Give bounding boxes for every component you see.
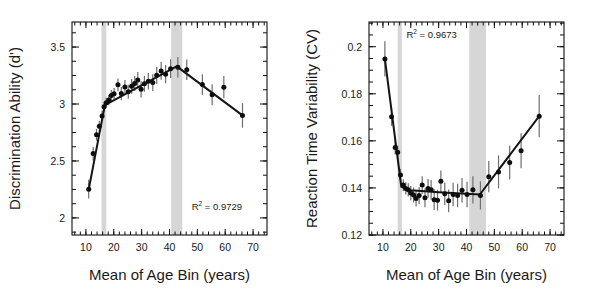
reaction-time-variability-panel: 102030405060700.120.140.160.180.2Mean of…: [297, 0, 594, 306]
data-point: [86, 187, 91, 192]
data-point: [163, 72, 168, 77]
data-point: [446, 198, 451, 203]
data-point: [91, 151, 96, 156]
shaded-band-0: [398, 22, 402, 235]
data-point: [154, 73, 159, 78]
r-squared-annotation: R2 = 0.9729: [192, 200, 242, 212]
discrimination-ability-panel: 1020304050607022.533.5Mean of Age Bin (y…: [0, 0, 297, 306]
data-point: [135, 78, 140, 83]
y-tick-label: 0.14: [342, 182, 363, 194]
data-point: [537, 114, 542, 119]
y-tick-label: 0.16: [342, 135, 363, 147]
data-point: [429, 187, 434, 192]
data-point: [175, 65, 180, 70]
y-tick-label: 2.5: [50, 155, 65, 167]
data-point: [486, 174, 491, 179]
right-plot-svg: 102030405060700.120.140.160.180.2Mean of…: [297, 0, 594, 306]
data-point: [398, 172, 403, 177]
data-point: [420, 183, 425, 188]
data-point: [126, 89, 131, 94]
figure-root: 1020304050607022.533.5Mean of Age Bin (y…: [0, 0, 594, 306]
data-point: [221, 85, 226, 90]
data-point: [146, 79, 151, 84]
data-point: [455, 193, 460, 198]
data-point: [112, 91, 117, 96]
error-bars: [385, 41, 539, 212]
data-point: [460, 188, 465, 193]
data-point: [200, 82, 205, 87]
data-point: [184, 67, 189, 72]
x-tick-label: 20: [108, 241, 120, 253]
fit-line: [89, 66, 243, 189]
data-point: [435, 198, 440, 203]
x-axis-title: Mean of Age Bin (years): [89, 266, 250, 283]
data-point: [451, 192, 456, 197]
data-point: [465, 192, 470, 197]
data-point: [496, 169, 501, 174]
x-tick-label: 50: [192, 241, 204, 253]
x-tick-label: 40: [164, 241, 176, 253]
x-tick-label: 70: [544, 241, 556, 253]
x-tick-label: 30: [136, 241, 148, 253]
data-point: [102, 104, 107, 109]
data-point: [210, 92, 215, 97]
data-point: [438, 179, 443, 184]
data-point: [519, 148, 524, 153]
y-tick-label: 3: [59, 98, 65, 110]
data-point: [119, 91, 124, 96]
x-tick-label: 30: [433, 241, 445, 253]
x-tick-label: 50: [489, 241, 501, 253]
data-point: [442, 191, 447, 196]
data-point: [240, 113, 245, 118]
shaded-band-0: [102, 22, 107, 235]
r-squared-annotation: R2 = 0.9673: [406, 28, 456, 40]
data-point: [106, 98, 111, 103]
x-tick-label: 40: [461, 241, 473, 253]
data-point: [97, 124, 102, 129]
y-tick-label: 0.12: [342, 229, 363, 241]
shaded-band-1: [469, 22, 486, 235]
data-point: [478, 193, 483, 198]
data-point: [159, 68, 164, 73]
left-plot-svg: 1020304050607022.533.5Mean of Age Bin (y…: [0, 0, 297, 306]
x-tick-label: 60: [219, 241, 231, 253]
fit-line: [385, 59, 539, 195]
data-point: [389, 114, 394, 119]
shaded-band-1: [171, 22, 182, 235]
x-tick-labels: 10203040506070: [377, 241, 556, 253]
data-point: [507, 160, 512, 165]
y-tick-label: 2: [59, 212, 65, 224]
data-point: [115, 82, 120, 87]
x-tick-label: 60: [516, 241, 528, 253]
data-point: [393, 145, 398, 150]
data-points: [86, 65, 245, 192]
y-axis-title: Reaction Time Variability (CV): [303, 29, 320, 228]
data-point: [470, 187, 475, 192]
error-bars: [89, 57, 243, 198]
data-point: [139, 87, 144, 92]
y-axis-title: Discrimination Ability (d'): [6, 47, 23, 210]
y-tick-label: 0.18: [342, 88, 363, 100]
y-tick-label: 3.5: [50, 41, 65, 53]
x-axis-title: Mean of Age Bin (years): [386, 266, 547, 283]
data-point: [100, 113, 105, 118]
data-point: [395, 150, 400, 155]
y-tick-labels: 0.120.140.160.180.2: [342, 41, 363, 241]
shaded-bands: [102, 22, 183, 235]
data-point: [382, 56, 387, 61]
x-tick-labels: 10203040506070: [80, 241, 259, 253]
x-tick-label: 10: [80, 241, 92, 253]
x-tick-label: 20: [405, 241, 417, 253]
y-tick-labels: 22.533.5: [50, 41, 65, 224]
data-point: [422, 195, 427, 200]
x-tick-label: 70: [247, 241, 259, 253]
data-point: [168, 66, 173, 71]
x-tick-label: 10: [377, 241, 389, 253]
data-point: [94, 132, 99, 137]
data-point: [122, 84, 127, 89]
y-tick-label: 0.2: [347, 41, 362, 53]
data-point: [417, 193, 422, 198]
data-point: [150, 80, 155, 85]
